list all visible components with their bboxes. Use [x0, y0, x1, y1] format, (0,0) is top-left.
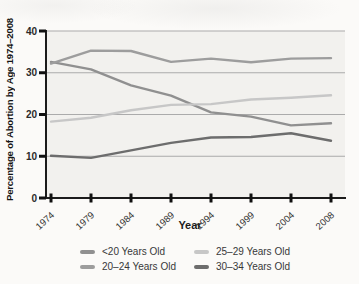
- legend-swatch-25-29-years-old: [194, 250, 209, 254]
- legend-swatch-20-24-years-old: [80, 265, 95, 269]
- legend-item-20-24-years-old: 20–24 Years Old: [80, 261, 194, 272]
- y-tick-label-40: 40: [26, 26, 38, 37]
- x-tick-2008: [330, 194, 333, 203]
- legend-item-25-29-years-old: 25–29 Years Old: [194, 246, 290, 257]
- y-tick-label-30: 30: [26, 67, 38, 78]
- x-tick-label-1979: 1979: [73, 209, 96, 231]
- legend-item-under-20-years-old: <20 Years Old: [80, 246, 194, 257]
- legend-label-30-34-years-old: 30–34 Years Old: [216, 261, 290, 272]
- abortion-by-age-line-chart: Percentage of Abortion by Age 1974–2008 …: [0, 0, 359, 284]
- y-tick-20: [39, 113, 46, 116]
- legend-item-30-34-years-old: 30–34 Years Old: [194, 261, 290, 272]
- legend-label-under-20-years-old: <20 Years Old: [102, 246, 165, 257]
- legend-label-25-29-years-old: 25–29 Years Old: [216, 246, 290, 257]
- x-tick-1994: [210, 194, 213, 203]
- y-tick-label-0: 0: [31, 193, 37, 204]
- x-tick-label-2004: 2004: [273, 209, 296, 231]
- y-tick-30: [39, 71, 46, 74]
- chart-plot-area: 0102030401974197919841989199419992004200…: [0, 0, 359, 284]
- y-tick-label-10: 10: [26, 151, 38, 162]
- legend-label-20-24-years-old: 20–24 Years Old: [102, 261, 176, 272]
- legend-swatch-under-20-years-old: [80, 250, 95, 254]
- x-tick-1999: [250, 194, 253, 203]
- y-tick-10: [39, 155, 46, 158]
- x-tick-label-2008: 2008: [313, 209, 336, 231]
- x-axis-title: Year: [178, 219, 202, 231]
- x-tick-2004: [290, 194, 293, 203]
- x-tick-label-1989: 1989: [153, 209, 176, 231]
- y-tick-label-20: 20: [26, 109, 38, 120]
- x-tick-1974: [50, 194, 53, 203]
- y-tick-0: [39, 197, 46, 200]
- x-tick-1984: [130, 194, 133, 203]
- x-tick-label-1984: 1984: [113, 209, 136, 231]
- x-tick-label-1999: 1999: [233, 209, 256, 231]
- y-tick-40: [39, 30, 46, 33]
- x-tick-1979: [90, 194, 93, 203]
- x-tick-label-1974: 1974: [33, 209, 56, 231]
- legend-swatch-30-34-years-old: [194, 265, 209, 269]
- x-tick-1989: [170, 194, 173, 203]
- chart-legend: <20 Years Old25–29 Years Old20–24 Years …: [80, 246, 290, 272]
